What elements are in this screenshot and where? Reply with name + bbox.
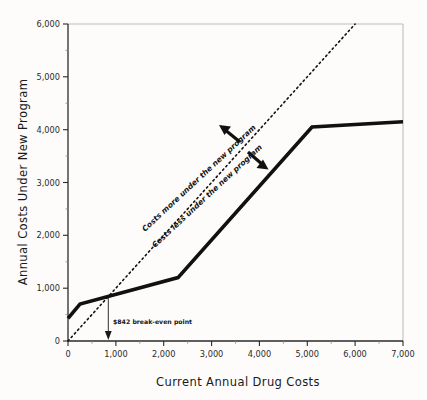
x-tick-label: 3,000 — [200, 349, 223, 359]
y-axis-title: Annual Costs Under New Program — [16, 79, 30, 286]
chart-figure: 0 1,000 2,000 3,000 4,000 5,000 6,000 0 … — [0, 0, 427, 400]
y-tick-label: 5,000 — [37, 72, 60, 82]
x-axis-title: Current Annual Drug Costs — [156, 375, 320, 389]
chart-background — [0, 0, 427, 400]
x-tick-label: 4,000 — [248, 349, 271, 359]
y-tick-label: 1,000 — [37, 283, 60, 293]
y-tick-label: 0 — [55, 336, 60, 346]
break-even-line-chart: 0 1,000 2,000 3,000 4,000 5,000 6,000 0 … — [0, 0, 427, 400]
x-tick-label: 2,000 — [152, 349, 175, 359]
x-tick-label: 5,000 — [296, 349, 319, 359]
x-tick-label: 7,000 — [391, 349, 414, 359]
x-tick-label: 0 — [65, 349, 70, 359]
x-tick-label: 1,000 — [104, 349, 127, 359]
y-tick-label: 6,000 — [37, 19, 60, 29]
y-tick-label: 4,000 — [37, 125, 60, 135]
break-even-label: $842 break-even point — [113, 318, 192, 326]
x-tick-label: 6,000 — [343, 349, 366, 359]
y-tick-label: 2,000 — [37, 230, 60, 240]
y-tick-label: 3,000 — [37, 178, 60, 188]
